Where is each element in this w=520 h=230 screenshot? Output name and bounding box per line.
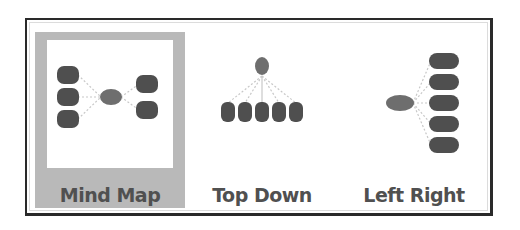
root-node — [255, 57, 269, 75]
layout-option-top-down[interactable]: Top Down — [187, 32, 337, 208]
link-line — [413, 103, 431, 145]
child-node — [57, 66, 79, 84]
link-line — [413, 103, 431, 124]
link-line — [78, 75, 101, 97]
child-node — [289, 102, 303, 122]
layout-option-label: Mind Map — [35, 184, 185, 206]
child-node — [429, 53, 459, 69]
layout-option-mind-map[interactable]: Mind Map — [35, 32, 185, 208]
layout-option-label: Left Right — [339, 184, 489, 206]
child-node — [221, 102, 235, 122]
child-node — [429, 74, 459, 90]
link-line — [413, 82, 431, 103]
child-node — [57, 110, 79, 128]
mind-map-layout-icon — [47, 40, 173, 168]
child-node — [429, 116, 459, 132]
root-node — [386, 95, 414, 111]
link-line — [245, 76, 262, 103]
mind-map-thumbnail — [47, 40, 173, 168]
link-line — [262, 76, 279, 103]
left-right-layout-icon — [351, 40, 477, 168]
child-node — [57, 88, 79, 106]
child-node — [429, 137, 459, 153]
child-node — [136, 101, 158, 119]
top-down-layout-icon — [199, 40, 325, 168]
top-down-thumbnail — [199, 40, 325, 168]
root-node — [100, 89, 122, 105]
child-node — [238, 102, 252, 122]
child-node — [136, 75, 158, 93]
layout-option-label: Top Down — [187, 184, 337, 206]
child-node — [429, 95, 459, 111]
link-line — [78, 97, 101, 119]
layout-picker-panel: Mind Map Top Down — [25, 18, 493, 216]
link-line — [228, 76, 262, 103]
child-node — [272, 102, 286, 122]
left-right-thumbnail — [351, 40, 477, 168]
link-line — [413, 61, 431, 103]
child-node — [255, 102, 269, 122]
link-line — [262, 76, 296, 103]
layout-option-left-right[interactable]: Left Right — [339, 32, 489, 208]
